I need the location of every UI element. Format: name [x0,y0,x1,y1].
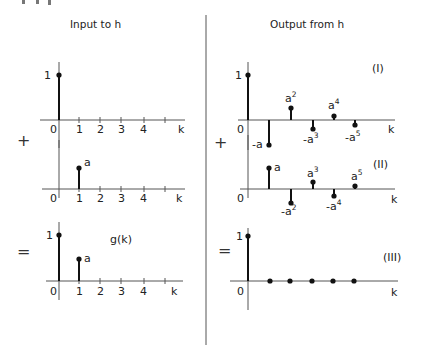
right-title: Output from h [270,18,344,30]
data-point [56,72,61,77]
svg-text:1: 1 [76,192,83,205]
svg-text:0: 0 [237,192,244,205]
svg-text:4: 4 [140,285,147,298]
svg-text:4: 4 [140,192,147,205]
svg-text:0: 0 [50,285,57,298]
svg-text:a: a [84,252,91,265]
right-plot-1: 1 0 k (I) -a a2 -a3 a4 -a5 [235,62,395,151]
equals-operator: = [218,241,231,260]
data-point [76,165,81,170]
data-point [76,256,81,261]
svg-text:0: 0 [50,123,57,136]
point-label: a [84,156,91,169]
data-point [56,232,61,237]
svg-text:0: 0 [237,123,244,136]
svg-text:-a4: -a4 [326,198,342,213]
function-label: g(k) [110,233,132,246]
plus-operator: + [214,133,227,152]
svg-text:k: k [391,193,398,206]
plus-operator: + [17,131,30,150]
right-plot-3: 1 0 k (III) [230,228,401,310]
svg-text:2: 2 [97,285,104,298]
svg-text:3: 3 [118,285,125,298]
svg-text:3: 3 [118,192,125,205]
svg-text:1: 1 [76,123,83,136]
svg-text:1: 1 [76,285,83,298]
series-tag: (III) [383,251,401,264]
svg-text:1: 1 [235,69,242,82]
svg-text:a: a [274,161,281,174]
svg-text:-a: -a [252,138,263,151]
svg-text:a4: a4 [328,97,340,112]
svg-text:k: k [178,123,185,136]
series-tag: (I) [372,62,384,75]
svg-text:a5: a5 [351,168,363,183]
left-plot-2: a 0 1 2 3 4 k [42,140,185,205]
left-plot-3: 1 a g(k) 0 1 2 3 4 k [46,222,183,300]
svg-text:-a5: -a5 [345,129,361,144]
y-label-one: 1 [44,69,51,82]
svg-text:-a2: -a2 [281,203,297,218]
left-plot-1: 1 0 1 2 3 4 k [40,62,185,148]
svg-text:3: 3 [118,123,125,136]
svg-text:1: 1 [46,229,53,242]
svg-text:1: 1 [236,230,243,243]
cropped-text-residue [22,0,51,5]
svg-text:0: 0 [50,192,57,205]
svg-text:-a3: -a3 [303,131,319,146]
diagram-canvas: Input to h Output from h 1 0 1 2 3 4 k +… [0,0,421,354]
left-title: Input to h [70,18,121,30]
series-tag: (II) [373,158,388,171]
svg-text:4: 4 [140,123,147,136]
svg-text:a3: a3 [307,165,319,180]
svg-text:k: k [388,123,395,136]
svg-text:k: k [176,192,183,205]
svg-text:a2: a2 [285,90,297,105]
svg-text:2: 2 [97,192,104,205]
equals-operator: = [17,242,30,261]
svg-text:k: k [391,286,398,299]
svg-text:2: 2 [97,123,104,136]
svg-text:0: 0 [237,285,244,298]
svg-text:k: k [171,285,178,298]
